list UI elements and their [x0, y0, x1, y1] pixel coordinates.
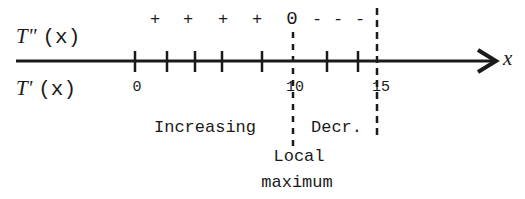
sign-plus-4: + — [252, 10, 262, 29]
second-derivative-label: T"(x) — [16, 24, 80, 49]
interval-increasing-label: Increasing — [154, 118, 256, 137]
sign-minus-1: - — [312, 10, 322, 29]
sign-plus-1: + — [150, 10, 160, 29]
local-max-label-line2: maximum — [261, 173, 332, 192]
first-derivative-label: T'(x) — [16, 76, 76, 101]
sign-plus-2: + — [183, 10, 193, 29]
tick-label-0: 0 — [132, 79, 141, 96]
local-max-label-line1: Local — [273, 147, 324, 166]
first-derivative-arg: (x) — [38, 78, 76, 101]
tick-label-10: 10 — [286, 79, 304, 96]
sign-minus-3: - — [355, 10, 365, 29]
x-axis-label: x — [503, 46, 512, 71]
second-derivative-name: T" — [16, 24, 37, 48]
sign-zero: 0 — [286, 8, 297, 30]
second-derivative-arg: (x) — [43, 26, 81, 49]
interval-decreasing-label: Decr. — [311, 118, 362, 137]
sign-minus-2: - — [333, 10, 343, 29]
sign-plus-3: + — [218, 10, 228, 29]
first-derivative-name: T' — [16, 76, 32, 100]
tick-label-15: 15 — [372, 79, 390, 96]
